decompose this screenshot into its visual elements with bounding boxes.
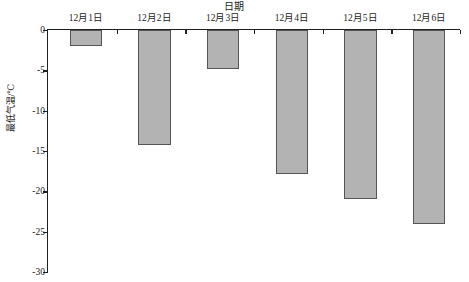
bar	[413, 30, 445, 224]
category-label: 12月1日	[69, 13, 103, 24]
bar	[70, 30, 102, 46]
y-tick-label: -10	[32, 106, 45, 116]
y-tick-label: -25	[32, 227, 45, 237]
y-tick-label: -30	[32, 267, 45, 277]
x-tick-mark	[254, 30, 255, 34]
category-label: 12月5日	[343, 13, 377, 24]
y-tick-label: -15	[32, 146, 45, 156]
chart-title: 日期	[0, 1, 469, 13]
y-axis-title: 最低气温/℃	[6, 70, 16, 146]
x-tick-mark	[391, 30, 392, 34]
bar	[207, 30, 239, 69]
category-label: 12月2日	[137, 13, 171, 24]
bar	[138, 30, 170, 145]
bar-chart: 日期 最低气温/℃ 0-5-10-15-20-25-30 12月1日12月2日1…	[0, 0, 469, 282]
y-tick-label: -5	[37, 65, 45, 75]
category-label: 12月3日	[206, 13, 240, 24]
y-tick-label: 0	[40, 25, 45, 35]
category-label: 12月6日	[412, 13, 446, 24]
category-label: 12月4日	[275, 13, 309, 24]
plot-area: 0-5-10-15-20-25-30 12月1日12月2日12月3日12月4日1…	[48, 30, 460, 272]
bar	[276, 30, 308, 174]
x-tick-mark	[323, 30, 324, 34]
bar	[344, 30, 376, 199]
x-tick-mark	[460, 30, 461, 34]
x-tick-mark	[117, 30, 118, 34]
y-tick-label: -20	[32, 186, 45, 196]
x-tick-mark	[185, 30, 186, 34]
